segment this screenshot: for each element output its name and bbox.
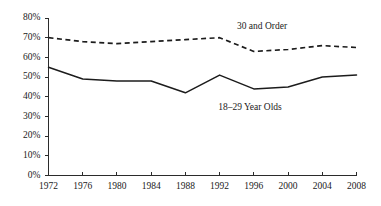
series-label-18-29-year-olds: 18–29 Year Olds (218, 102, 282, 112)
x-tick-label: 1980 (107, 181, 126, 191)
y-tick-label: 0% (28, 170, 41, 180)
x-tick-label: 2000 (279, 181, 298, 191)
x-tick-label: 1996 (244, 181, 263, 191)
x-tick-label: 2004 (313, 181, 332, 191)
x-tick-label: 2008 (347, 181, 366, 191)
series-label-30-and-order: 30 and Order (237, 21, 288, 31)
x-tick-label: 1976 (73, 181, 92, 191)
y-axis-ticks (45, 18, 49, 176)
y-tick-label: 70% (23, 32, 41, 42)
y-tick-label: 60% (23, 52, 41, 62)
x-axis-tick-labels: 1972197619801984198819921996200020042008 (39, 181, 366, 191)
x-tick-label: 1972 (39, 181, 58, 191)
line-chart: 0%10%20%30%40%50%60%70%80% 1972197619801… (0, 0, 381, 206)
x-axis-ticks (83, 172, 357, 176)
y-tick-label: 20% (23, 130, 41, 140)
x-tick-label: 1992 (210, 181, 229, 191)
y-tick-label: 10% (23, 150, 41, 160)
x-tick-label: 1988 (176, 181, 195, 191)
y-tick-label: 50% (23, 71, 41, 81)
series-line-18-29-year-olds (49, 67, 357, 93)
y-axis-tick-labels: 0%10%20%30%40%50%60%70%80% (23, 12, 41, 180)
y-tick-label: 80% (23, 12, 41, 22)
series-line-30-and-order (49, 38, 357, 52)
x-tick-label: 1984 (142, 181, 161, 191)
chart-canvas: 0%10%20%30%40%50%60%70%80% 1972197619801… (0, 0, 381, 206)
y-tick-label: 30% (23, 111, 41, 121)
y-tick-label: 40% (23, 91, 41, 101)
